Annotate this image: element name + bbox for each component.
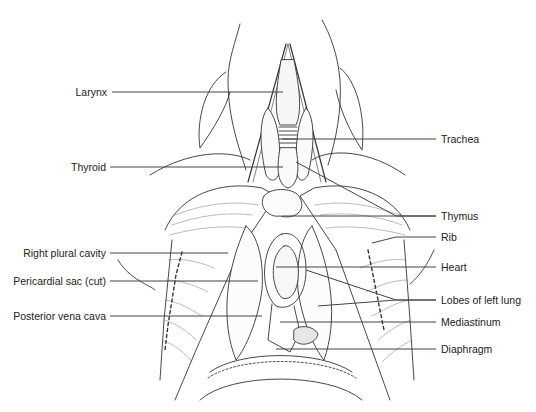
label-pericardial-sac: Pericardial sac (cut) xyxy=(13,275,106,287)
label-diaphragm: Diaphragm xyxy=(441,343,492,355)
label-lobes-of-left-lung: Lobes of left lung xyxy=(441,294,521,306)
thymus xyxy=(262,189,302,216)
label-thymus: Thymus xyxy=(441,210,478,222)
left-forelimb-outline xyxy=(199,72,230,148)
leader-line-thymus-2 xyxy=(296,162,436,216)
right-lung xyxy=(227,226,263,360)
label-larynx: Larynx xyxy=(75,86,107,98)
anatomy-figure: Larynx Thyroid Right plural cavity Peric… xyxy=(0,0,536,412)
diaphragm xyxy=(210,356,352,373)
trachea-rings xyxy=(279,127,297,143)
label-rib: Rib xyxy=(441,231,457,243)
thyroid-lobe xyxy=(261,108,280,180)
heart xyxy=(273,246,298,299)
label-thyroid: Thyroid xyxy=(71,161,106,173)
mediastinum xyxy=(268,304,300,352)
head-outline xyxy=(228,24,246,170)
leader-line-lobes-of-left-lung-2 xyxy=(318,300,436,306)
label-right-plural-cavity: Right plural cavity xyxy=(23,247,106,259)
label-trachea: Trachea xyxy=(441,133,479,145)
label-heart: Heart xyxy=(441,261,467,273)
ribs-left xyxy=(165,252,182,350)
head-outline xyxy=(322,20,340,165)
label-mediastinum: Mediastinum xyxy=(441,316,501,328)
label-posterior-vena-cava: Posterior vena cava xyxy=(13,310,106,322)
